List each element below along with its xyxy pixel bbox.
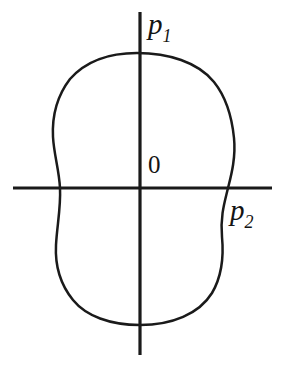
horizontal-axis-variable: p bbox=[230, 194, 245, 226]
horizontal-axis-label: p2 bbox=[230, 196, 254, 227]
figure-canvas: p1 p2 0 bbox=[0, 0, 290, 369]
vertical-axis-variable: p bbox=[148, 8, 163, 40]
origin-label: 0 bbox=[148, 152, 161, 177]
horizontal-axis-subscript: 2 bbox=[245, 212, 254, 232]
math-diagram-svg bbox=[0, 0, 290, 369]
vertical-axis-label: p1 bbox=[148, 10, 172, 41]
vertical-axis-subscript: 1 bbox=[163, 26, 172, 46]
